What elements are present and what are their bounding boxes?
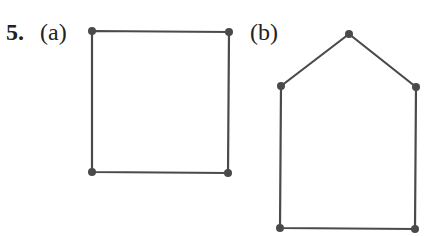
vertex-dot — [224, 169, 232, 177]
vertex-dot — [411, 225, 419, 233]
vertex-dot — [88, 168, 96, 176]
vertex-dot — [277, 82, 285, 90]
vertex-dot — [276, 224, 284, 232]
vertex-dot — [225, 28, 233, 36]
square-outline — [92, 31, 229, 173]
house-figure-b — [276, 30, 420, 233]
square-figure-a — [88, 27, 233, 177]
vertex-dot — [345, 30, 353, 38]
vertex-dot — [88, 27, 96, 35]
vertex-dot — [412, 83, 420, 91]
pentagon-house-outline — [280, 34, 416, 229]
diagram-canvas — [0, 0, 437, 236]
